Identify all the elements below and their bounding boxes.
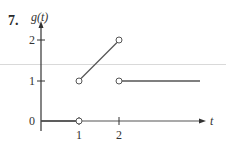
plot-area: g(t) t 2 1 0 1 2 — [0, 0, 226, 146]
y-axis — [37, 21, 45, 131]
x-axis-label: t — [210, 114, 214, 128]
y-tick-label-2: 2 — [29, 33, 35, 47]
graph-figure: 7. g(t) t 2 1 0 1 2 — [0, 0, 226, 146]
open-circle-marker — [116, 37, 122, 43]
y-tick-label-1: 1 — [29, 74, 35, 88]
y-axis-label: g(t) — [31, 10, 48, 24]
open-circle-marker — [116, 78, 122, 84]
x-tick-label-2: 2 — [116, 128, 122, 142]
open-circle-marker — [76, 118, 82, 124]
x-axis-arrow-icon — [199, 119, 206, 124]
series-segment-1 — [41, 118, 82, 124]
series-segment-2 — [76, 37, 122, 84]
series-segment-3 — [116, 78, 200, 84]
y-tick-label-0: 0 — [29, 114, 35, 128]
open-circle-marker — [76, 78, 82, 84]
x-tick-label-1: 1 — [76, 128, 82, 142]
